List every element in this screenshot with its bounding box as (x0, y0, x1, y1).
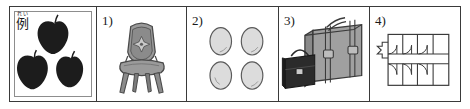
panel-label-3: 3) (284, 14, 295, 27)
chair-leg-back-left (133, 74, 139, 93)
apple-body (38, 21, 69, 54)
egg (241, 62, 263, 89)
handbag-clasp (296, 69, 303, 75)
egg (241, 28, 263, 55)
floorplan-entrance (377, 42, 388, 58)
suitcase-buckle (324, 50, 334, 58)
panel-item-4[interactable]: 4) (369, 7, 460, 101)
panel-label-4: 4) (375, 14, 386, 27)
egg (210, 28, 232, 55)
panel-item-3[interactable]: 3) (278, 7, 369, 101)
suitcase-buckle (348, 46, 358, 54)
panel-label-example: 例れい (16, 11, 29, 30)
panel-label-2: 2) (192, 14, 203, 27)
chair-leg-back-right (145, 74, 151, 93)
panel-label-1: 1) (102, 14, 113, 27)
chair-leg-front-right (154, 73, 163, 94)
floorplan-outer-wall (388, 34, 449, 85)
picture-strip: 例れい 1) (9, 6, 461, 102)
handbag-side (282, 58, 285, 88)
apple-body (56, 57, 83, 88)
chair-star-center (140, 43, 143, 46)
panel-example[interactable]: 例れい (10, 7, 96, 101)
panel-item-2[interactable]: 2) (186, 7, 278, 101)
egg (210, 62, 232, 89)
panel-item-1[interactable]: 1) (96, 7, 186, 101)
chair-leg-front-left (120, 73, 129, 94)
apple-body (17, 56, 48, 90)
worksheet-sheet: 例れい 1) (0, 0, 470, 109)
